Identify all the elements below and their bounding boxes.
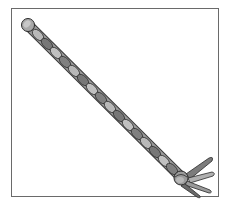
rope-illustration — [0, 0, 232, 209]
rope-knot-icon — [174, 171, 188, 185]
rope-twists — [30, 27, 180, 177]
